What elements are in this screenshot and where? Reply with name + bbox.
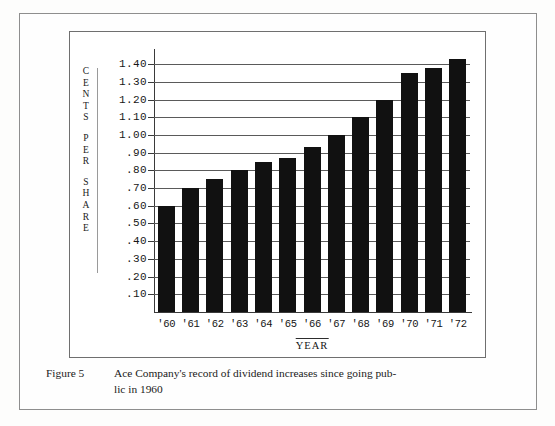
bar — [401, 73, 418, 312]
y-axis-title-char: R — [76, 212, 96, 224]
y-axis-title-char: S — [76, 177, 96, 189]
y-axis-tick-label: .20 — [126, 271, 147, 283]
x-axis-tick-label: '69 — [376, 318, 394, 330]
y-axis-title-char: T — [76, 101, 96, 113]
y-axis-tick — [148, 206, 154, 207]
y-axis-title-word: SHARE — [76, 177, 96, 235]
bar — [158, 206, 175, 312]
x-axis-tick-label: '61 — [181, 318, 199, 330]
x-axis-tick-label: '70 — [400, 318, 418, 330]
bar — [255, 162, 272, 312]
x-axis-tick-label: '71 — [425, 318, 443, 330]
y-axis-tick — [148, 170, 154, 171]
y-axis-tick — [148, 241, 154, 242]
y-axis-tick-label: .50 — [126, 217, 147, 229]
gridline — [154, 135, 470, 136]
x-axis-tick-label: '63 — [230, 318, 248, 330]
y-axis-tick — [148, 135, 154, 136]
y-axis-tick-label: .40 — [126, 235, 147, 247]
bar — [304, 147, 321, 312]
x-axis-tick-label: '72 — [449, 318, 467, 330]
y-axis-title: CENTSPERSHARE — [76, 66, 96, 235]
y-axis-tick — [148, 223, 154, 224]
y-axis-title-rule — [97, 68, 98, 273]
y-axis-title-char: H — [76, 188, 96, 200]
figure-caption-line-2: lic in 1960 — [114, 382, 476, 398]
y-axis-title-char: A — [76, 200, 96, 212]
y-axis-tick-label: 1.40 — [119, 58, 147, 70]
y-axis-title-char: E — [76, 145, 96, 157]
y-axis-title-word: CENTS — [76, 66, 96, 124]
y-axis-tick-label: 1.30 — [119, 76, 147, 88]
y-axis-tick — [148, 259, 154, 260]
figure-caption: Figure 5Ace Company's record of dividend… — [46, 366, 476, 397]
y-axis-tick-label: .70 — [126, 182, 147, 194]
bar — [425, 68, 442, 312]
y-axis-title-char: N — [76, 89, 96, 101]
y-axis-tick-label: 1.00 — [119, 129, 147, 141]
y-axis-title-char: P — [76, 133, 96, 145]
x-axis-title: YEAR — [296, 338, 329, 351]
gridline — [154, 64, 470, 65]
y-axis-tick-label: .80 — [126, 164, 147, 176]
y-axis-tick — [148, 153, 154, 154]
y-axis-tick-label: .10 — [126, 288, 147, 300]
bar — [449, 59, 466, 312]
x-axis-tick-label: '60 — [157, 318, 175, 330]
y-axis-tick-label: .90 — [126, 147, 147, 159]
chart-container: CENTSPERSHARE .10.20.30.40.50.60.70.80.9… — [69, 31, 486, 358]
bar — [182, 188, 199, 312]
figure-caption-line-1: Ace Company's record of dividend increas… — [114, 367, 396, 379]
y-axis-title-gap — [76, 124, 96, 133]
y-axis-title-char: E — [76, 223, 96, 235]
x-axis-tick-label: '67 — [327, 318, 345, 330]
gridline — [154, 100, 470, 101]
figure-page: CENTSPERSHARE .10.20.30.40.50.60.70.80.9… — [0, 0, 555, 426]
x-axis-tick-label: '62 — [206, 318, 224, 330]
bar — [376, 100, 393, 312]
bar — [279, 158, 296, 312]
y-axis-tick — [148, 100, 154, 101]
y-axis-tick-label: 1.20 — [119, 94, 147, 106]
y-axis-tick — [148, 277, 154, 278]
y-axis-title-gap — [76, 168, 96, 177]
plot-area: .10.20.30.40.50.60.70.80.901.001.101.201… — [154, 50, 470, 312]
y-axis-title-char: C — [76, 66, 96, 78]
y-axis-title-char: E — [76, 78, 96, 90]
y-axis-tick-label: .60 — [126, 200, 147, 212]
figure-number: Figure 5 — [46, 366, 114, 382]
x-axis-tick-label: '68 — [352, 318, 370, 330]
y-axis-tick-label: 1.10 — [119, 111, 147, 123]
bar — [231, 170, 248, 312]
y-axis-tick-label: .30 — [126, 253, 147, 265]
y-axis-tick — [148, 82, 154, 83]
bar — [206, 179, 223, 312]
y-axis-tick — [148, 188, 154, 189]
y-axis-title-char: R — [76, 156, 96, 168]
bar — [328, 135, 345, 312]
y-axis-tick — [148, 64, 154, 65]
gridline — [154, 117, 470, 118]
y-axis-title-char: S — [76, 112, 96, 124]
y-axis-title-word: PER — [76, 133, 96, 168]
x-axis-tick-label: '66 — [303, 318, 321, 330]
x-axis-line — [154, 312, 472, 313]
y-axis-tick — [148, 117, 154, 118]
x-axis-tick-label: '64 — [254, 318, 272, 330]
bar — [352, 117, 369, 312]
gridline — [154, 82, 470, 83]
y-axis-tick — [148, 294, 154, 295]
x-axis-tick-label: '65 — [279, 318, 297, 330]
